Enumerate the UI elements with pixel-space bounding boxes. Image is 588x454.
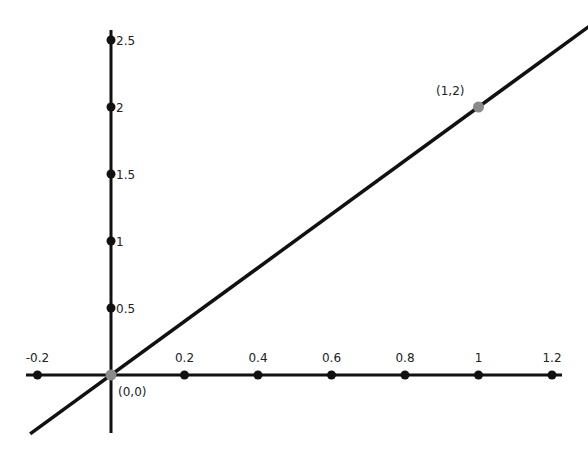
x-tick-dot [254,371,263,380]
y-tick-dot [107,237,116,246]
point-label: (0,0) [118,385,146,399]
coordinate-plot: -0.20.20.40.60.811.20.511.522.5(0,0)(1,2… [0,0,588,454]
y-tick-label: 0.5 [116,302,135,316]
x-tick-dot [548,371,557,380]
x-tick-dot [327,371,336,380]
x-tick-label: 0.8 [395,351,414,365]
x-tick-dot [180,371,189,380]
x-tick-dot [33,371,42,380]
y-tick-dot [107,170,116,179]
point-label: (1,2) [436,84,464,98]
x-tick-label: 0.6 [322,351,341,365]
y-tick-label: 2 [116,101,124,115]
x-tick-label: 1.2 [542,351,561,365]
y-tick-dot [107,304,116,313]
highlight-point [106,370,117,381]
highlight-point [473,102,484,113]
x-tick-label: 0.2 [175,351,194,365]
y-tick-label: 2.5 [116,34,135,48]
x-tick-dot [474,371,483,380]
x-tick-label: 1 [475,351,483,365]
y-tick-label: 1.5 [116,168,135,182]
y-tick-label: 1 [116,235,124,249]
x-tick-dot [401,371,410,380]
x-tick-label: -0.2 [26,351,49,365]
x-tick-label: 0.4 [248,351,267,365]
y-tick-dot [107,103,116,112]
y-tick-dot [107,36,116,45]
tick-labels: -0.20.20.40.60.811.20.511.522.5(0,0)(1,2… [26,34,562,399]
